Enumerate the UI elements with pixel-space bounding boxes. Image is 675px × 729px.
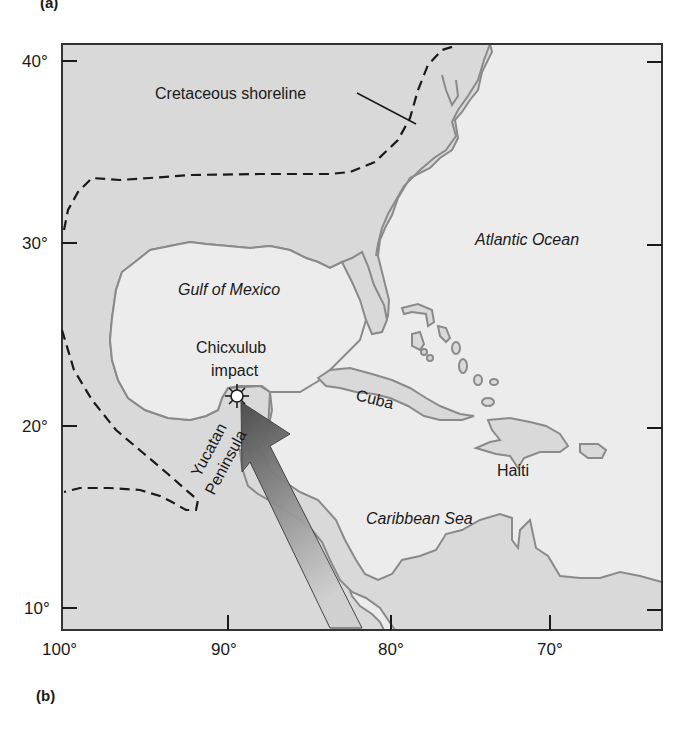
y-tick-20: 20° [22,417,48,436]
label-caribbean-sea: Caribbean Sea [366,510,473,527]
x-tick-80: 80° [378,640,404,659]
label-impact: impact [211,362,259,379]
y-tick-40: 40° [22,52,48,71]
label-haiti: Haiti [497,462,529,479]
x-tick-90: 90° [211,640,237,659]
label-atlantic-ocean: Atlantic Ocean [474,231,579,248]
y-tick-30: 30° [22,234,48,253]
map-figure: 40° 30° 20° 10° 100° 90° 80° 70° Cretace… [0,0,675,729]
puerto-rico [580,444,606,458]
label-chicxulub: Chicxulub [196,339,266,356]
x-tick-100: 100° [42,640,77,659]
label-gulf-of-mexico: Gulf of Mexico [178,281,280,298]
label-cretaceous-shoreline: Cretaceous shoreline [155,85,306,102]
y-tick-10: 10° [24,599,50,618]
x-tick-70: 70° [537,640,563,659]
